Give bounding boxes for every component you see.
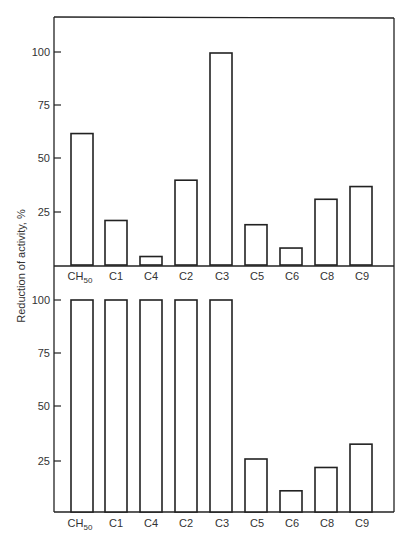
- top-panel-x-labels: CH50 C1 C4 C2 C3 C5 C6 C8 C9: [68, 270, 369, 285]
- top-xlabel-ch50: CH50: [68, 270, 93, 285]
- bar-c3: [210, 53, 232, 265]
- bar-ch50: [71, 134, 93, 265]
- bottom-ytick-75: 75: [38, 347, 50, 359]
- bottom-xlabel-ch50: CH50: [68, 517, 93, 532]
- top-ytick-75: 75: [38, 99, 50, 111]
- bar-c1: [105, 300, 127, 512]
- bottom-panel-y-ticks: [54, 300, 61, 461]
- bar-c6: [280, 491, 302, 512]
- top-border: [54, 17, 394, 18]
- bottom-xlabel-c4: C4: [144, 517, 158, 529]
- bottom-xlabel-c5: C5: [250, 517, 264, 529]
- top-panel-y-ticks: [54, 52, 61, 212]
- bar-chart-figure: 100 75 50 25 100 75 50 25 Reduction of a…: [0, 0, 410, 541]
- top-xlabel-c2: C2: [179, 270, 193, 282]
- bottom-ytick-25: 25: [38, 455, 50, 467]
- bar-c5: [245, 459, 267, 512]
- bar-c4: [140, 257, 162, 265]
- bar-c1: [105, 220, 127, 265]
- bottom-xlabel-c1: C1: [109, 517, 123, 529]
- bar-c2: [175, 180, 197, 265]
- top-xlabel-c9: C9: [355, 270, 369, 282]
- top-xlabel-c8: C8: [320, 270, 334, 282]
- y-axis-label: Reduction of activity, %: [15, 209, 27, 323]
- top-ytick-50: 50: [38, 152, 50, 164]
- bottom-panel-x-labels: CH50 C1 C4 C2 C3 C5 C6 C8 C9: [68, 517, 369, 532]
- bar-c9: [350, 444, 372, 512]
- bottom-xlabel-c3: C3: [215, 517, 229, 529]
- top-ytick-25: 25: [38, 206, 50, 218]
- bottom-xlabel-c8: C8: [320, 517, 334, 529]
- bar-c4: [140, 300, 162, 512]
- top-xlabel-c4: C4: [144, 270, 158, 282]
- top-xlabel-c3: C3: [215, 270, 229, 282]
- bottom-ytick-50: 50: [38, 400, 50, 412]
- bottom-xlabel-c6: C6: [285, 517, 299, 529]
- bar-c6: [280, 248, 302, 265]
- bar-c8: [315, 467, 337, 512]
- bottom-panel-bars: [71, 300, 372, 512]
- top-xlabel-c1: C1: [109, 270, 123, 282]
- bar-c8: [315, 199, 337, 265]
- top-ytick-100: 100: [32, 46, 50, 58]
- bar-c5: [245, 225, 267, 265]
- bottom-xlabel-c2: C2: [179, 517, 193, 529]
- top-panel-bars: [71, 53, 372, 265]
- top-xlabel-c5: C5: [250, 270, 264, 282]
- bar-c9: [350, 187, 372, 265]
- bar-c2: [175, 300, 197, 512]
- bottom-xlabel-c9: C9: [355, 517, 369, 529]
- top-xlabel-c6: C6: [285, 270, 299, 282]
- bar-c3: [210, 300, 232, 512]
- bar-ch50: [71, 300, 93, 512]
- bottom-ytick-100: 100: [32, 294, 50, 306]
